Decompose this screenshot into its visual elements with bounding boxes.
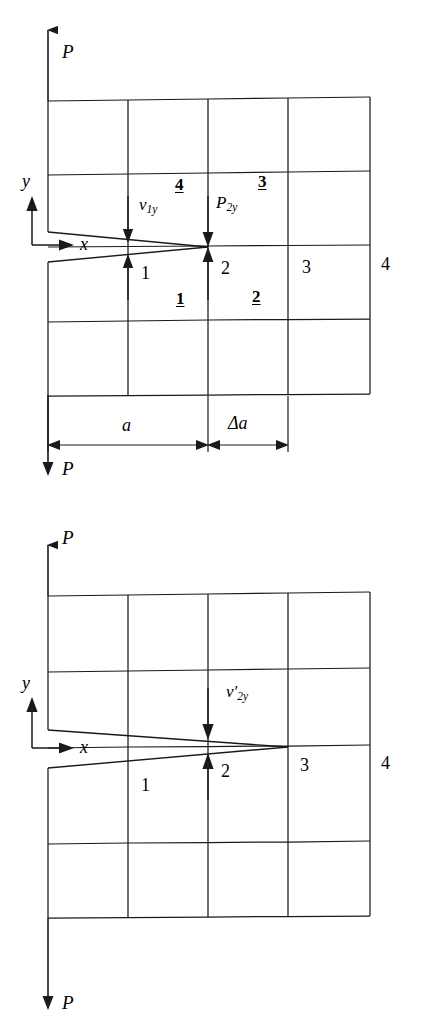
top-dimension-lines [48,396,288,452]
top-element-label-4: 4 [175,176,184,193]
bottom-panel-graphics [26,545,370,1010]
bottom-load-label-upper: P [62,528,74,547]
top-dim-a-head-left [47,440,60,450]
bottom-load-arrow-down [43,996,54,1010]
top-mesh [48,97,370,396]
top-v1y-base: v [139,195,147,214]
top-load-label-upper: P [62,42,74,61]
bottom-v2y-head-down [202,724,213,740]
top-mesh-hline-3 [48,319,370,322]
bottom-x-axis-head [59,742,74,753]
top-dimension-label-a: a [122,416,131,434]
figure-root: P P y x v1y P2y 4 3 1 2 1 2 3 4 a Δa P P… [0,0,422,1030]
top-dimension-label-delta-a: Δa [228,414,248,432]
bottom-v2y-sub: 2y [237,690,248,703]
top-p2y-head-down [203,232,214,247]
bottom-node-label-2: 2 [221,762,230,780]
bottom-coordinate-axes [26,697,74,754]
bottom-v2y-base: v [226,682,234,701]
top-load-label-lower: P [62,459,74,478]
top-node-label-2: 2 [221,259,230,277]
bottom-mesh-hline-4 [48,916,370,918]
top-mesh-hline-4 [48,394,370,396]
bottom-mesh [48,592,370,918]
top-y-axis-head [26,196,37,211]
bottom-load-label-lower: P [62,993,74,1012]
top-y-axis-label: y [22,172,30,190]
top-p2y-base: P [216,193,226,212]
bottom-mesh-hline-3 [48,841,370,844]
top-mesh-hline-0 [48,97,370,101]
bottom-mesh-hline-2 [48,745,370,748]
bottom-y-axis-label: y [22,674,30,692]
top-x-axis-head [59,239,74,250]
bottom-mesh-hline-0 [48,592,370,596]
top-coordinate-axes [26,196,74,251]
top-panel-graphics [26,30,370,476]
bottom-v2y-head-up [202,753,213,769]
top-mesh-hline-2 [48,245,370,247]
top-dim-a [47,440,209,450]
top-element-label-2: 2 [252,288,261,305]
top-v1y-sub: 1y [147,203,158,216]
top-p2y-label: P2y [216,194,237,213]
top-v1y-label: v1y [139,196,157,215]
top-p2y-sub: 2y [226,201,237,214]
top-node-label-3: 3 [302,258,311,276]
bottom-node-label-3: 3 [300,756,309,774]
top-load-arrow-down [43,462,54,476]
top-x-axis-label: x [80,235,88,253]
top-dim-delta-a [207,440,289,450]
top-node-label-1: 1 [141,264,150,282]
bottom-v2y-label: v′2y [226,683,248,702]
bottom-x-axis-label: x [80,738,88,756]
bottom-y-axis-head [26,697,37,712]
top-v1y-head-down [123,229,133,243]
bottom-node-label-1: 1 [141,776,150,794]
top-dim-da-head-left [207,440,220,450]
bottom-node-label-4: 4 [381,754,390,772]
figure-svg [0,0,422,1030]
top-element-label-1: 1 [176,290,185,307]
top-node-label-4: 4 [381,255,390,273]
top-dim-da-head-right [276,440,289,450]
top-mesh-hline-1 [48,171,370,175]
top-v1y-head-up [123,254,133,268]
bottom-mesh-hline-1 [48,668,370,672]
top-element-label-3: 3 [258,173,267,190]
top-p2y-head-up [203,247,214,262]
